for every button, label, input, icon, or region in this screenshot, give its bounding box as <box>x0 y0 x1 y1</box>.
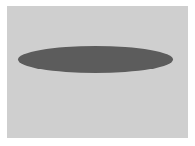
dark-gray-ellipse <box>18 46 173 73</box>
